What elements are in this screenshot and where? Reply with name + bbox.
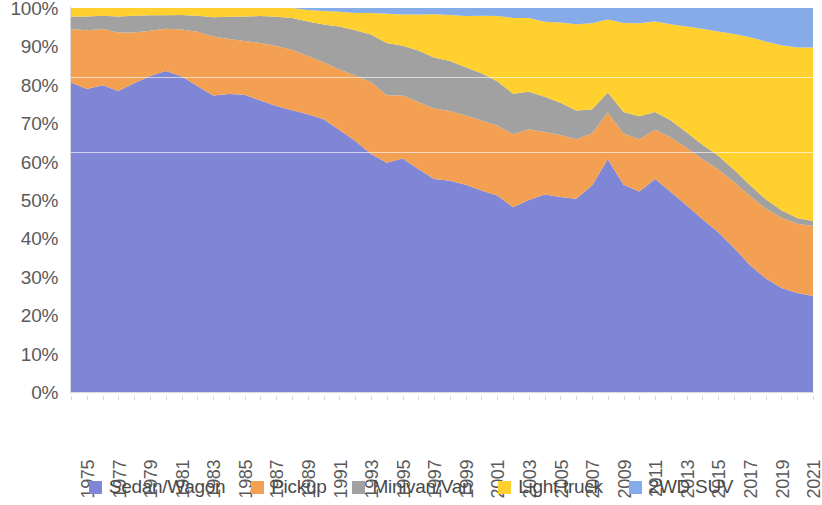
legend-swatch-icon (352, 481, 365, 494)
legend-item-sedan-wagon[interactable]: Sedan/Wagon (89, 476, 225, 498)
x-axis-tick-mark (197, 396, 198, 400)
x-axis-tick-mark (182, 396, 183, 400)
legend-label: 2WD SUV (649, 476, 733, 498)
legend-item-pickup[interactable]: Pickup (251, 476, 326, 498)
x-axis-tick-mark (813, 396, 814, 400)
y-axis-tick-label: 90% (21, 37, 58, 56)
x-axis-tick-mark (245, 396, 246, 400)
legend-swatch-icon (629, 481, 642, 494)
x-axis-tick-mark (387, 396, 388, 400)
x-axis-tick-mark (371, 396, 372, 400)
x-axis-tick-mark (355, 396, 356, 400)
x-axis-tick-mark (639, 396, 640, 400)
x-axis-tick-mark (481, 396, 482, 400)
legend-item-light-truck[interactable]: Light truck (498, 476, 602, 498)
x-axis-tick-mark (71, 396, 72, 400)
x-axis-tick-mark (718, 396, 719, 400)
y-axis-tick-label: 0% (31, 383, 58, 402)
legend-swatch-icon (251, 481, 264, 494)
legend-swatch-icon (498, 481, 511, 494)
x-axis-tick-mark (497, 396, 498, 400)
x-axis-tick-mark (513, 396, 514, 400)
y-axis-tick-label: 50% (21, 191, 58, 210)
x-axis-tick-mark (702, 396, 703, 400)
x-axis-tick-mark (450, 396, 451, 400)
legend-label: Light truck (518, 476, 602, 498)
x-axis-tick-mark (466, 396, 467, 400)
legend-label: Pickup (271, 476, 326, 498)
x-axis-tick-mark (434, 396, 435, 400)
y-axis-tick-label: 10% (21, 344, 58, 363)
x-axis-tick-mark (276, 396, 277, 400)
x-axis-tick-mark (166, 396, 167, 400)
x-axis-tick-mark (671, 396, 672, 400)
y-axis-tick-label: 70% (21, 114, 58, 133)
x-axis-tick-mark (545, 396, 546, 400)
plot-area (71, 8, 813, 392)
x-axis-tick-mark (103, 396, 104, 400)
y-axis-tick-label: 30% (21, 267, 58, 286)
x-axis-line (70, 392, 814, 393)
x-axis-tick-mark (576, 396, 577, 400)
x-axis-tick-mark (766, 396, 767, 400)
x-axis-tick-mark (797, 396, 798, 400)
y-axis: 0%10%20%30%40%50%60%70%80%90%100% (0, 0, 64, 400)
x-axis-tick-mark (529, 396, 530, 400)
x-axis-tick-mark (150, 396, 151, 400)
x-axis-tick-mark (308, 396, 309, 400)
legend-label: Minivan/Van (372, 476, 472, 498)
y-axis-tick-label: 100% (11, 0, 58, 18)
y-axis-tick-label: 20% (21, 306, 58, 325)
y-axis-tick-label: 80% (21, 75, 58, 94)
x-axis-tick-mark (403, 396, 404, 400)
x-axis-tick-mark (229, 396, 230, 400)
x-axis-tick-mark (324, 396, 325, 400)
x-axis-tick-mark (687, 396, 688, 400)
y-axis-tick-label: 60% (21, 152, 58, 171)
x-axis-tick-mark (608, 396, 609, 400)
x-axis-tick-mark (292, 396, 293, 400)
x-axis-tick-mark (134, 396, 135, 400)
legend-label: Sedan/Wagon (109, 476, 225, 498)
plot-svg (71, 8, 813, 392)
x-axis-tick-mark (260, 396, 261, 400)
x-axis-tick-mark (592, 396, 593, 400)
chart-legend: Sedan/WagonPickupMinivan/VanLight truck2… (0, 472, 822, 502)
x-axis-tick-mark (339, 396, 340, 400)
x-axis-tick-mark (655, 396, 656, 400)
legend-item-2wd-suv[interactable]: 2WD SUV (629, 476, 733, 498)
x-axis: 1975197719791981198319851987198919911993… (71, 396, 813, 464)
x-axis-tick-mark (418, 396, 419, 400)
x-axis-tick-mark (560, 396, 561, 400)
x-axis-tick-mark (118, 396, 119, 400)
x-axis-tick-mark (624, 396, 625, 400)
x-axis-tick-mark (734, 396, 735, 400)
y-axis-tick-label: 40% (21, 229, 58, 248)
legend-item-minivan-van[interactable]: Minivan/Van (352, 476, 472, 498)
x-axis-tick-mark (87, 396, 88, 400)
legend-swatch-icon (89, 481, 102, 494)
stacked-area-chart: 0%10%20%30%40%50%60%70%80%90%100% 197519… (0, 0, 822, 505)
x-axis-tick-mark (750, 396, 751, 400)
x-axis-tick-mark (213, 396, 214, 400)
x-axis-tick-mark (781, 396, 782, 400)
